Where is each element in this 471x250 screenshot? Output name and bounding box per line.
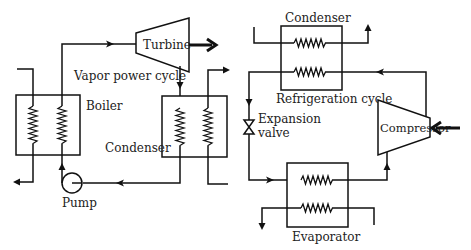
arrow-head-icon <box>259 223 266 230</box>
refrigeration-condenser-label: Condenser <box>285 11 351 25</box>
turbine-label: Turbine <box>143 38 191 52</box>
refrigeration-condenser-box <box>281 26 342 90</box>
arrow-head-icon <box>223 67 230 74</box>
refrigeration-cycle: Condenser Refrigeration cycle Expansion … <box>244 11 460 244</box>
expansion-valve-icon <box>244 120 254 134</box>
arrow-head-icon <box>59 163 66 170</box>
refrigeration-cycle-title: Refrigeration cycle <box>276 92 392 106</box>
vapor-power-cycle: Turbine Vapor power cycle Boiler Condens… <box>13 18 230 210</box>
boiler-box <box>16 95 80 155</box>
condenser-label: Condenser <box>105 141 171 155</box>
thermodynamic-cycles-diagram: Turbine Vapor power cycle Boiler Condens… <box>0 0 471 250</box>
arrow-head-icon <box>384 163 391 170</box>
arrow-head-icon <box>177 82 184 89</box>
evaporator-label: Evaporator <box>292 230 361 244</box>
pump-label: Pump <box>62 196 97 210</box>
evaporator-box <box>287 163 348 227</box>
arrow-head-icon <box>13 179 20 186</box>
boiler-label: Boiler <box>86 99 123 113</box>
expansion-valve-label-line1: Expansion <box>258 112 321 126</box>
condenser-box <box>162 96 227 157</box>
arrow-head-icon <box>365 24 372 31</box>
vapor-power-cycle-title: Vapor power cycle <box>73 69 186 83</box>
expansion-valve-label-line2: valve <box>257 126 290 140</box>
arrow-head-icon <box>246 99 253 106</box>
